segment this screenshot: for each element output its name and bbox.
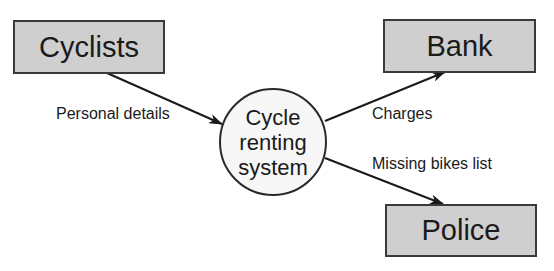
entity-bank: Bank bbox=[383, 19, 536, 73]
flow-label-personal-details: Personal details bbox=[56, 105, 170, 123]
flow-label-charges: Charges bbox=[372, 105, 432, 123]
process-label-line-2: renting bbox=[239, 130, 306, 155]
process-cycle-renting-system: Cycle renting system bbox=[219, 88, 327, 196]
entity-police: Police bbox=[385, 204, 537, 257]
process-label-line-1: Cycle bbox=[245, 105, 300, 130]
entity-cyclists-label: Cyclists bbox=[39, 31, 139, 64]
entity-police-label: Police bbox=[422, 214, 501, 247]
process-label-line-3: system bbox=[238, 155, 308, 180]
entity-bank-label: Bank bbox=[426, 30, 492, 63]
flow-label-missing-bikes-list: Missing bikes list bbox=[372, 155, 492, 173]
entity-cyclists: Cyclists bbox=[13, 20, 165, 74]
